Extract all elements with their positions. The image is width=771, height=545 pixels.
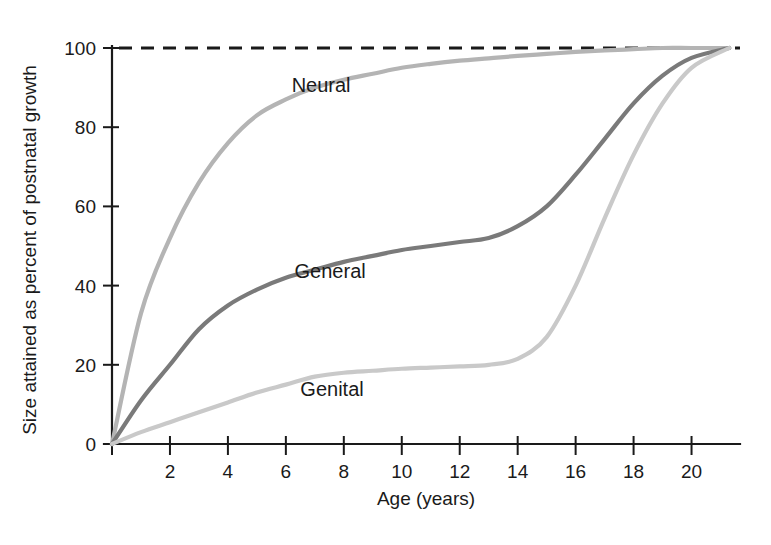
- x-tick-label: 4: [223, 461, 234, 482]
- x-tick-label: 14: [507, 461, 529, 482]
- x-tick-label: 18: [623, 461, 644, 482]
- x-tick-label: 6: [281, 461, 292, 482]
- y-tick-label: 20: [75, 355, 96, 376]
- y-tick-label: 80: [75, 117, 96, 138]
- series-label-neural: Neural: [292, 74, 351, 96]
- x-axis-title: Age (years): [377, 488, 475, 509]
- y-tick-label: 40: [75, 276, 96, 297]
- x-tick-labels: 2468101214161820: [165, 461, 702, 482]
- chart-canvas: Size attained as percent of postnatal gr…: [0, 0, 771, 545]
- y-tick-label: 0: [85, 434, 96, 455]
- x-tick-label: 12: [449, 461, 470, 482]
- x-tick-marks: [112, 436, 692, 455]
- curve-general: [112, 48, 729, 444]
- data-curves: [112, 48, 729, 444]
- series-label-general: General: [295, 260, 366, 282]
- series-annotations: NeuralGeneralGenital: [292, 74, 366, 401]
- y-tick-label: 100: [64, 38, 96, 59]
- series-label-genital: Genital: [300, 378, 363, 400]
- x-tick-label: 8: [339, 461, 350, 482]
- x-tick-label: 10: [391, 461, 412, 482]
- growth-curve-chart: Size attained as percent of postnatal gr…: [0, 0, 771, 545]
- x-tick-label: 16: [565, 461, 586, 482]
- y-tick-label: 60: [75, 196, 96, 217]
- x-tick-label: 2: [165, 461, 176, 482]
- y-tick-labels: 020406080100: [64, 38, 96, 455]
- x-tick-label: 20: [681, 461, 702, 482]
- y-axis-title: Size attained as percent of postnatal gr…: [19, 65, 40, 435]
